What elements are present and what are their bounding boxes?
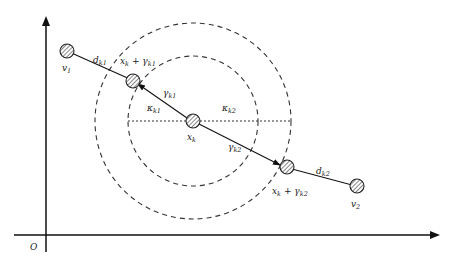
label-v2: v2 <box>351 199 360 211</box>
label-v1: v1 <box>62 63 71 75</box>
node-xk-plus-gamma-k2 <box>280 160 294 174</box>
edge-xk-to-xk-gamma-k2 <box>199 124 280 165</box>
node-v2 <box>350 179 364 193</box>
axes: O <box>14 16 440 252</box>
origin-label: O <box>30 242 38 252</box>
x-axis-arrow-icon <box>430 231 440 239</box>
diagram-canvas: O v1 xk + γk1 xk xk + γk2 v2 dk1 γk1 κk1… <box>0 0 451 265</box>
label-gamma-k1: γk1 <box>163 88 176 100</box>
node-xk <box>186 114 200 128</box>
node-v1 <box>60 44 74 58</box>
label-xk-plus-gamma-k1: xk + γk1 <box>120 56 156 68</box>
label-gamma-k2: γk2 <box>228 142 241 154</box>
y-axis-arrow-icon <box>42 16 50 26</box>
label-kappa-k1: κk1 <box>146 103 161 115</box>
label-kappa-k2: κk2 <box>221 103 236 115</box>
label-xk: xk <box>187 132 196 144</box>
label-xk-plus-gamma-k2: xk + γk2 <box>272 186 308 198</box>
label-d-k1: dk1 <box>93 55 107 67</box>
node-xk-plus-gamma-k1 <box>126 74 140 88</box>
